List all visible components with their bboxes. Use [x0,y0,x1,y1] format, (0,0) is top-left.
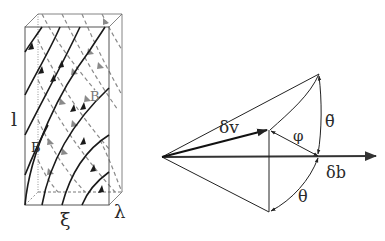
flux-box [25,14,122,205]
db-label: δb [326,163,346,182]
theta-arc [271,158,318,211]
cone-edge-lower [162,157,269,212]
depth-label: λ [114,201,125,222]
theta-label: θ [298,187,308,206]
front-field-lines [25,27,109,205]
theta-tilde-label: θ̃ [325,112,335,131]
figure: l B B ξ λ δv φ θ̃ δb θ [0,0,385,241]
field-label-front: B [31,140,41,155]
field-label-back: B [90,89,100,104]
front-arrowheads [28,42,104,193]
theta-tilde-arc [318,76,321,154]
phi-label: φ [293,127,304,145]
dv-vector [162,130,267,157]
arc-upper [270,74,319,130]
dv-label: δv [219,117,239,137]
height-label: l [11,108,17,130]
vector-diagram [162,74,376,212]
width-label: ξ [60,208,70,230]
